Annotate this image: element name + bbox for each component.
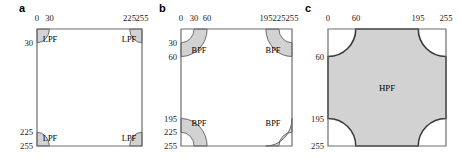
panel-letter-a: a <box>19 3 25 14</box>
panel-a-x-tick-255: 255 <box>136 14 149 23</box>
panel-c-x-tick-195: 195 <box>412 14 425 23</box>
panel-a-label-top-left: LPF <box>43 35 58 44</box>
panel-a-x-tick-0: 0 <box>35 14 39 23</box>
panel-a-x-tick-30: 30 <box>45 14 54 23</box>
panel-c-plot: HPF <box>328 29 446 146</box>
panel-a-plot: LPF LPF LPF LPF <box>37 29 142 146</box>
panel-a-y-tick-30: 30 <box>12 39 33 48</box>
panel-b-label-bottom-left: BPF <box>192 119 207 128</box>
panel-b-x-tick-225: 225 <box>273 14 286 23</box>
panel-letter-c: c <box>305 3 311 14</box>
panel-b-x-tick-30: 30 <box>190 14 199 23</box>
panel-b-x-tick-0: 0 <box>179 14 183 23</box>
panel-c-y-tick-255: 255 <box>302 142 324 151</box>
panel-b-y-tick-195: 195 <box>156 114 177 123</box>
panel-b-y-tick-255: 255 <box>156 142 177 151</box>
panel-c-y-tick-195: 195 <box>302 114 324 123</box>
panel-c-y-tick-60: 60 <box>302 52 324 61</box>
panel-lpf: a 0 30 225 255 30 225 255 LP <box>0 0 150 158</box>
panel-b-label-bottom-right: BPF <box>266 119 281 128</box>
panel-a-label-bottom-left: LPF <box>43 134 58 143</box>
panel-b-label-top-right: BPF <box>266 46 281 55</box>
panel-b-x-tick-255: 255 <box>286 14 299 23</box>
panel-c-x-tick-0: 0 <box>326 14 330 23</box>
panel-b-x-tick-60: 60 <box>203 14 212 23</box>
panel-b-plot: BPF BPF BPF BPF <box>181 29 292 146</box>
panel-a-label-bottom-right: LPF <box>122 134 137 143</box>
panel-b-x-tick-195: 195 <box>260 14 273 23</box>
panel-b-label-top-left: BPF <box>192 46 207 55</box>
panel-a-y-tick-255: 255 <box>12 142 33 151</box>
panel-c-label-hpf: HPF <box>379 83 395 93</box>
panel-b-y-tick-225: 225 <box>156 128 177 137</box>
panel-a-y-tick-225: 225 <box>12 128 33 137</box>
figure-filter-masks: a 0 30 225 255 30 225 255 LP <box>0 0 460 158</box>
panel-c-x-tick-60: 60 <box>352 14 361 23</box>
panel-b-y-tick-60: 60 <box>156 52 177 61</box>
panel-hpf: c 0 60 195 255 60 195 255 HPF <box>298 0 460 158</box>
panel-c-x-tick-255: 255 <box>440 14 453 23</box>
panel-letter-b: b <box>159 3 166 14</box>
panel-a-label-top-right: LPF <box>122 35 137 44</box>
panel-bpf: b 0 30 60 195 225 255 30 60 195 225 255 <box>150 0 298 158</box>
panel-b-y-tick-30: 30 <box>156 39 177 48</box>
panel-a-x-tick-225: 225 <box>123 14 136 23</box>
